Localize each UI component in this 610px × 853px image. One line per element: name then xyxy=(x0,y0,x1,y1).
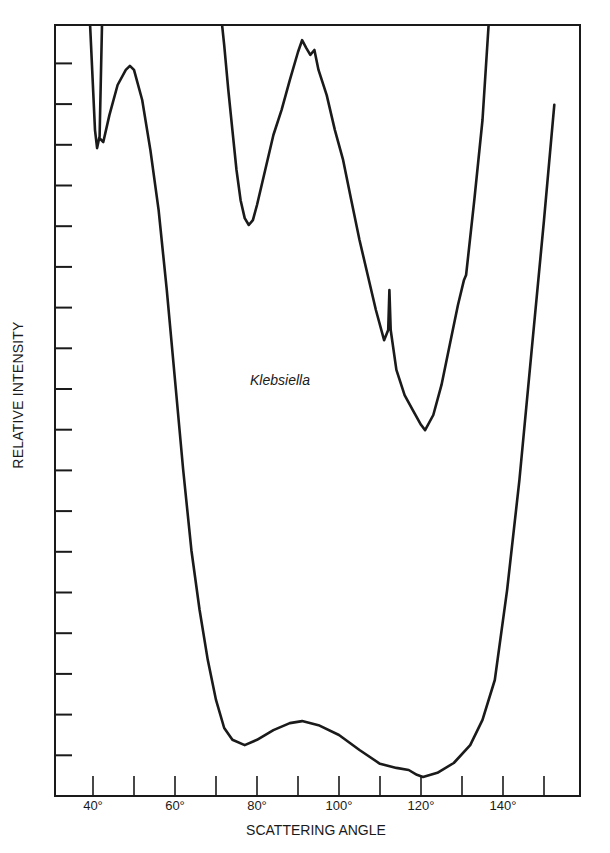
x-tick-label: 120° xyxy=(408,798,435,813)
y-axis-label: RELATIVE INTENSITY xyxy=(10,321,26,468)
y-axis-ticks xyxy=(55,63,72,755)
series-line xyxy=(222,25,489,430)
x-tick-label: 40° xyxy=(83,798,103,813)
plot-frame xyxy=(55,25,580,796)
series-line xyxy=(90,25,554,777)
x-tick-label: 100° xyxy=(326,798,353,813)
x-tick-label: 80° xyxy=(247,798,267,813)
series-line xyxy=(100,25,102,137)
x-tick-label: 60° xyxy=(165,798,185,813)
x-tick-label: 140° xyxy=(490,798,517,813)
x-axis-ticks xyxy=(93,776,544,796)
organism-annotation: Klebsiella xyxy=(250,372,310,388)
x-axis-label: SCATTERING ANGLE xyxy=(246,822,386,838)
data-series xyxy=(90,25,554,777)
scattering-chart xyxy=(0,0,610,853)
